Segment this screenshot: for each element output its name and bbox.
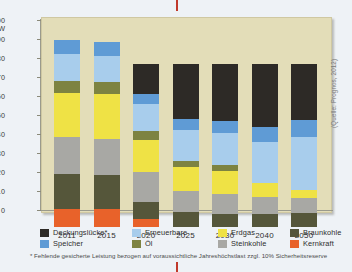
bar-segment-steinkohle [94,139,120,175]
bar-segment-kernkraft [94,209,120,227]
bar-segment-speicher [252,127,278,142]
y-axis-tick-label: 60 [0,93,5,100]
y-axis-tick-label: 10 [0,188,5,195]
bar-segment-braunkohle [54,174,80,209]
bar-segment-erneuerbare [54,54,80,81]
bar-segment-öl [212,165,238,171]
legend-item-kernkraft: Kernkraft [290,239,334,248]
chart-footnote: * Fehlende gesicherte Leistung bezogen a… [26,252,331,259]
bar-segment-erdgas [94,94,120,139]
legend-swatch-braunkohle [290,229,299,237]
bar-segment-erneuerbare [252,142,278,183]
legend-row-2: Speicher Öl Steinkohle Kernkraft [40,239,340,250]
legend-label-speicher: Speicher [53,239,83,248]
bar-segment-erdgas [212,171,238,194]
plot-area: 2011201520202025203020402050 [41,17,332,213]
bar-segment-erneuerbare [212,133,238,165]
bar-segment-öl [173,161,199,167]
legend-swatch-oel [132,240,141,248]
bar-2011 [54,17,80,230]
legend-label-kernkraft: Kernkraft [303,239,334,248]
y-axis-tick-label: 30 [0,150,5,157]
legend-label-braunkohle: Braunkohle [303,228,341,237]
bar-segment-erdgas [252,183,278,196]
bar-segment-steinkohle [212,194,238,214]
legend-label-steinkohle: Steinkohle [231,239,267,248]
y-axis-tick-label: 100 [0,17,5,24]
bar-segment-steinkohle [133,172,159,202]
legend-label-erdgas: Erdgas [231,228,255,237]
bar-segment-öl [54,81,80,93]
bar-2050 [291,17,317,230]
legend-swatch-deckungsluecke [40,229,49,237]
bar-2020 [133,17,159,230]
bar-segment-kernkraft [54,209,80,227]
legend-swatch-speicher [40,240,49,248]
bar-segment-erneuerbare [173,130,199,161]
legend-item-speicher: Speicher [40,239,83,248]
legend-swatch-kernkraft [290,240,299,248]
bar-segment-erneuerbare [94,56,120,82]
y-axis-tick-label: 70 [0,74,5,81]
y-axis: 1009080706050403020100GW [0,0,41,213]
legend-swatch-erneuerbare [132,229,141,237]
bar-segment-steinkohle [173,191,199,212]
bar-segment-erdgas [173,167,199,191]
bar-segment-erdgas [54,93,80,137]
bar-segment-erneuerbare [133,104,159,132]
bar-segment-speicher [291,120,317,137]
bar-segment-braunkohle [212,214,238,227]
bar-2040 [252,17,278,230]
y-axis-tick-label: 90 [0,36,5,43]
stacked-bar-chart-figure: 1009080706050403020100GW 201120152020202… [0,0,352,272]
chart-legend: Deckungslücke* Erneuerbare Erdgas Braunk… [40,228,340,250]
bar-segment-speicher [54,40,80,54]
bar-segment-speicher [173,119,199,130]
bar-segment-steinkohle [54,137,80,174]
bar-segment-speicher [94,42,120,56]
bar-segment-deckungslücke [212,64,238,121]
bar-segment-speicher [133,94,159,104]
source-note: (Quelle: Prognos, 2012) [330,59,337,128]
bar-segment-braunkohle [133,202,159,219]
y-axis-tick-label: 0 [0,207,5,214]
bar-segment-deckungslücke [173,64,199,119]
legend-label-erneuerbare: Erneuerbare [145,228,187,237]
y-axis-tick-label: 80 [0,55,5,62]
bar-segment-speicher [212,121,238,133]
bar-segment-kernkraft [133,219,159,227]
bar-segment-deckungslücke [291,64,317,120]
legend-item-steinkohle: Steinkohle [218,239,267,248]
bar-2015 [94,17,120,230]
y-axis-tick-label: 50 [0,112,5,119]
bar-segment-braunkohle [94,175,120,209]
bar-segment-braunkohle [252,214,278,227]
bottom-crop-tick-icon [176,262,178,272]
top-crop-tick-icon [176,0,178,11]
y-axis-tick-label: 20 [0,169,5,176]
legend-swatch-erdgas [218,229,227,237]
bar-segment-erdgas [291,190,317,198]
legend-item-deckungsluecke: Deckungslücke* [40,228,107,237]
bar-segment-steinkohle [252,197,278,214]
legend-item-erdgas: Erdgas [218,228,255,237]
bar-segment-braunkohle [173,212,199,227]
bar-2030 [212,17,238,230]
bar-segment-braunkohle [291,213,317,227]
legend-item-oel: Öl [132,239,153,248]
bar-segment-deckungslücke [252,64,278,128]
y-axis-unit-label: GW [0,25,5,32]
legend-row-1: Deckungslücke* Erneuerbare Erdgas Braunk… [40,228,340,239]
legend-label-deckungsluecke: Deckungslücke* [53,228,107,237]
bar-segment-erneuerbare [291,137,317,190]
bar-segment-steinkohle [291,198,317,213]
legend-item-erneuerbare: Erneuerbare [132,228,187,237]
legend-swatch-steinkohle [218,240,227,248]
y-axis-tick-label: 40 [0,131,5,138]
bar-2025 [173,17,199,230]
legend-item-braunkohle: Braunkohle [290,228,341,237]
bar-segment-deckungslücke [133,64,159,94]
bar-segment-öl [94,82,120,94]
legend-label-oel: Öl [145,239,153,248]
bar-segment-erdgas [133,140,159,172]
